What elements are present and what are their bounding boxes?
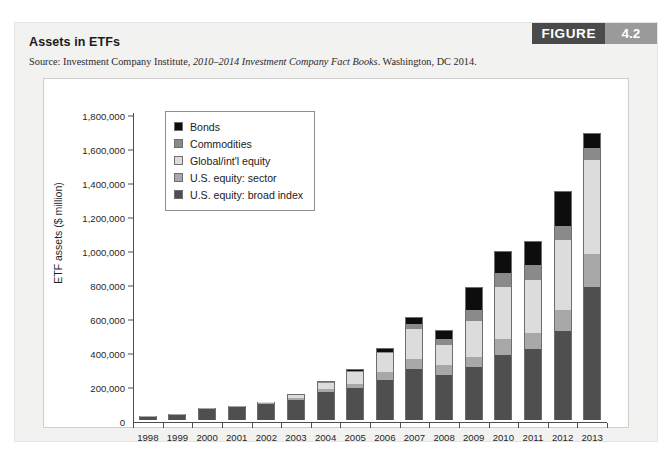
source-italic-citation: 2010–2014 Investment Company Fact Books — [193, 56, 378, 67]
legend-item-2: Global/int'l equity — [174, 152, 303, 169]
y-tick-label: 1,400,000 — [61, 179, 131, 190]
x-tick-mark — [607, 423, 608, 428]
y-tick-label: 400,000 — [61, 349, 131, 360]
figure-card: FIGURE 4.2 Assets in ETFs Source: Invest… — [14, 22, 658, 442]
x-tick-mark — [133, 423, 134, 428]
bar-2000 — [198, 408, 216, 420]
bar-segment — [139, 417, 157, 420]
bar-segment — [317, 392, 335, 420]
bar-segment — [554, 331, 572, 420]
y-tick-label: 200,000 — [61, 383, 131, 394]
bar-segment — [435, 330, 453, 340]
bar-segment — [583, 254, 601, 286]
x-tick-mark — [192, 423, 193, 428]
bar-segment — [287, 400, 305, 420]
legend-swatch-icon — [174, 173, 183, 182]
bar-segment — [465, 287, 483, 310]
legend-label: U.S. equity: sector — [190, 172, 277, 184]
bar-segment — [583, 148, 601, 160]
bar-segment — [524, 265, 542, 280]
legend-swatch-icon — [174, 156, 183, 165]
legend-label: Bonds — [190, 121, 220, 133]
bar-segment — [198, 409, 216, 420]
legend-swatch-icon — [174, 122, 183, 131]
bar-segment — [494, 287, 512, 339]
x-tick-label: 2013 — [572, 432, 612, 443]
legend-item-4: U.S. equity: broad index — [174, 186, 303, 203]
figure-title: Assets in ETFs — [29, 35, 120, 49]
bar-segment — [583, 287, 601, 420]
bar-segment — [524, 280, 542, 333]
x-tick-mark — [400, 423, 401, 428]
bar-2001 — [228, 406, 246, 420]
bar-2012 — [554, 191, 572, 420]
y-tick-label: 1,800,000 — [61, 111, 131, 122]
chart-plot-panel: ETF assets ($ million) 0200,000400,00060… — [43, 78, 629, 428]
bar-segment — [376, 353, 394, 372]
x-tick-mark — [459, 423, 460, 428]
bar-segment — [405, 359, 423, 369]
x-tick-mark — [489, 423, 490, 428]
legend-item-0: Bonds — [174, 118, 303, 135]
bar-segment — [465, 357, 483, 367]
source-suffix: . Washington, DC 2014. — [378, 56, 477, 67]
bar-segment — [376, 380, 394, 420]
bar-2005 — [346, 369, 364, 420]
bar-1998 — [139, 416, 157, 420]
bar-segment — [465, 321, 483, 357]
bar-2003 — [287, 394, 305, 420]
legend-swatch-icon — [174, 190, 183, 199]
bar-segment — [524, 333, 542, 350]
legend-label: Commodities — [190, 138, 252, 150]
y-tick-label: 1,200,000 — [61, 213, 131, 224]
bar-2008 — [435, 330, 453, 420]
x-tick-mark — [252, 423, 253, 428]
legend-label: U.S. equity: broad index — [190, 189, 303, 201]
bar-segment — [554, 240, 572, 310]
bar-segment — [435, 345, 453, 364]
bar-segment — [494, 273, 512, 287]
figure-page: FIGURE 4.2 Assets in ETFs Source: Invest… — [0, 0, 670, 461]
x-tick-mark — [518, 423, 519, 428]
source-prefix: Source: Investment Company Institute, — [29, 56, 193, 67]
bar-segment — [494, 355, 512, 420]
x-tick-mark — [370, 423, 371, 428]
bar-segment — [435, 375, 453, 420]
bar-segment — [228, 407, 246, 420]
bar-2006 — [376, 348, 394, 420]
bar-segment — [168, 415, 186, 420]
bar-segment — [524, 241, 542, 265]
y-axis-title: ETF assets ($ million) — [52, 143, 64, 323]
figure-badge-word: FIGURE — [532, 23, 605, 44]
x-tick-mark — [222, 423, 223, 428]
bar-segment — [405, 329, 423, 359]
y-tick-label: 1,000,000 — [61, 247, 131, 258]
bar-2002 — [257, 402, 275, 420]
bar-2013 — [583, 133, 601, 420]
y-tick-label: 1,600,000 — [61, 145, 131, 156]
bar-segment — [405, 317, 423, 324]
bar-segment — [465, 310, 483, 322]
bar-segment — [494, 339, 512, 354]
x-tick-mark — [429, 423, 430, 428]
bar-segment — [524, 349, 542, 420]
bar-segment — [435, 365, 453, 375]
bar-segment — [494, 251, 512, 273]
bar-2004 — [317, 381, 335, 420]
bar-segment — [554, 226, 572, 240]
legend-swatch-icon — [174, 139, 183, 148]
bar-1999 — [168, 414, 186, 420]
figure-badge-number: 4.2 — [605, 23, 657, 44]
y-tick-label: 600,000 — [61, 315, 131, 326]
bar-segment — [554, 191, 572, 226]
y-tick-label: 800,000 — [61, 281, 131, 292]
legend-item-1: Commodities — [174, 135, 303, 152]
x-tick-mark — [281, 423, 282, 428]
figure-source: Source: Investment Company Institute, 20… — [29, 56, 477, 67]
bar-2011 — [524, 241, 542, 420]
y-tick-label: 0 — [61, 417, 131, 428]
bar-segment — [405, 369, 423, 420]
legend-item-3: U.S. equity: sector — [174, 169, 303, 186]
y-axis-line — [133, 113, 134, 422]
x-tick-mark — [163, 423, 164, 428]
